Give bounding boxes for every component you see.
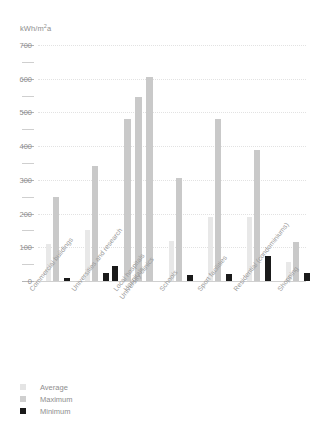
y-axis-tick-label: 400 [0, 142, 32, 151]
y-axis-tick-minor [22, 197, 34, 198]
bar-minimum [112, 266, 118, 281]
y-axis-tick-minor [22, 96, 34, 97]
gridline [38, 45, 306, 46]
bar-minimum [265, 256, 271, 281]
bar-average [46, 244, 51, 281]
legend-label: Maximum [40, 395, 73, 404]
legend-swatch-average [20, 384, 26, 390]
bar-maximum [53, 197, 59, 281]
bar-maximum [293, 242, 299, 281]
gridline [38, 112, 306, 113]
legend-swatch-maximum [20, 396, 26, 402]
legend-item[interactable]: Maximum [20, 393, 73, 405]
y-axis-tick-label: 100 [0, 243, 32, 252]
x-axis-baseline [34, 281, 306, 282]
bar-minimum [103, 273, 109, 281]
y-axis-tick-minor [22, 163, 34, 164]
bar-average [247, 217, 252, 281]
gridline [38, 180, 306, 181]
bar-minimum [226, 274, 232, 281]
bar-average [85, 230, 90, 281]
gridline [38, 146, 306, 147]
plot-area [38, 45, 306, 281]
legend-label: Minimum [40, 407, 70, 416]
bar-chart: kWh/m2a 0100200300400500600700 Commercia… [0, 0, 315, 429]
y-axis-tick-minor [22, 230, 34, 231]
bar-average [169, 241, 174, 281]
y-axis-unit-suffix: a [47, 24, 51, 33]
legend-label: Average [40, 383, 68, 392]
legend-item[interactable]: Average [20, 381, 73, 393]
bar-minimum [304, 273, 310, 281]
bar-maximum [146, 77, 153, 281]
gridline [38, 79, 306, 80]
y-axis-unit-label: kWh/m2a [20, 24, 51, 33]
bar-average [208, 217, 213, 281]
chart-legend: AverageMaximumMinimum [20, 381, 73, 417]
bar-maximum [254, 150, 260, 281]
bar-maximum [215, 119, 221, 281]
y-axis-tick-minor [22, 264, 34, 265]
y-axis-tick-label: 300 [0, 175, 32, 184]
y-axis-tick-minor [22, 129, 34, 130]
y-axis-tick-label: 500 [0, 108, 32, 117]
bar-maximum [92, 166, 98, 281]
bar-average [286, 262, 291, 281]
legend-swatch-minimum [20, 408, 26, 414]
bar-maximum [176, 178, 182, 281]
y-axis-tick-label: 200 [0, 209, 32, 218]
bar-maximum [124, 119, 131, 281]
y-axis-tick-minor [22, 62, 34, 63]
y-axis-tick-label: 0 [0, 277, 32, 286]
gridline [38, 214, 306, 215]
legend-item[interactable]: Minimum [20, 405, 73, 417]
y-axis-tick-label: 600 [0, 74, 32, 83]
bar-maximum [135, 97, 142, 281]
y-axis-unit-prefix: kWh/m [20, 24, 44, 33]
y-axis-tick-label: 700 [0, 41, 32, 50]
